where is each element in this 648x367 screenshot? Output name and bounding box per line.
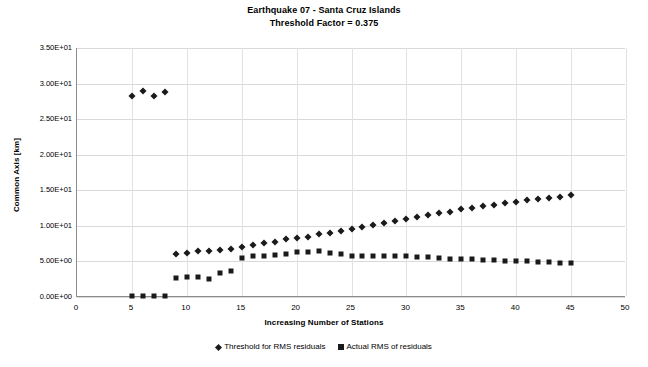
data-point-diamond — [513, 198, 520, 205]
data-point-diamond — [326, 229, 333, 236]
data-point-square — [448, 256, 453, 261]
data-point-diamond — [161, 89, 168, 96]
y-tick-label: 1.50E+01 — [20, 186, 72, 194]
x-tick-label: 0 — [61, 303, 91, 312]
data-point-diamond — [271, 239, 278, 246]
chart-legend: Threshold for RMS residualsActual RMS of… — [0, 342, 648, 351]
gridline-vertical — [187, 48, 188, 296]
data-point-diamond — [447, 208, 454, 215]
data-point-diamond — [304, 233, 311, 240]
data-point-diamond — [425, 212, 432, 219]
data-point-square — [371, 253, 376, 258]
gridline-vertical — [626, 48, 627, 296]
data-point-diamond — [315, 231, 322, 238]
data-point-square — [316, 249, 321, 254]
data-point-square — [129, 294, 134, 299]
data-point-square — [173, 275, 178, 280]
data-point-square — [569, 260, 574, 265]
legend-label: Threshold for RMS residuals — [224, 342, 325, 351]
data-point-diamond — [150, 92, 157, 99]
chart-title-block: Earthquake 07 - Santa Cruz Islands Thres… — [0, 4, 648, 30]
data-point-square — [195, 275, 200, 280]
x-axis-title: Increasing Number of Stations — [0, 318, 648, 327]
chart-subtitle: Threshold Factor = 0.375 — [0, 17, 648, 30]
gridline-vertical — [132, 48, 133, 296]
data-point-square — [272, 253, 277, 258]
data-point-diamond — [183, 249, 190, 256]
y-tick-label: 0.00E+00 — [20, 293, 72, 301]
data-point-diamond — [205, 247, 212, 254]
y-tick-label: 3.50E+01 — [20, 44, 72, 52]
data-point-diamond — [216, 246, 223, 253]
data-point-square — [481, 258, 486, 263]
data-point-diamond — [469, 205, 476, 212]
x-tick-label: 50 — [610, 303, 640, 312]
data-point-square — [426, 255, 431, 260]
data-point-square — [239, 255, 244, 260]
data-point-square — [261, 253, 266, 258]
gridline-vertical — [297, 48, 298, 296]
data-point-diamond — [436, 210, 443, 217]
x-tick-label: 25 — [336, 303, 366, 312]
data-point-diamond — [282, 236, 289, 243]
data-point-diamond — [568, 191, 575, 198]
data-point-diamond — [293, 234, 300, 241]
x-tick-label: 10 — [171, 303, 201, 312]
data-point-square — [338, 252, 343, 257]
data-point-square — [382, 254, 387, 259]
data-point-square — [404, 254, 409, 259]
x-tick-label: 20 — [281, 303, 311, 312]
square-marker-icon — [338, 344, 344, 350]
data-point-square — [437, 255, 442, 260]
gridline-horizontal — [77, 297, 625, 298]
data-point-diamond — [370, 222, 377, 229]
data-point-diamond — [491, 201, 498, 208]
data-point-square — [547, 260, 552, 265]
data-point-diamond — [458, 206, 465, 213]
y-axis-title: Common Axis [km] — [12, 120, 21, 230]
data-point-diamond — [249, 242, 256, 249]
data-point-diamond — [139, 87, 146, 94]
data-point-square — [228, 269, 233, 274]
data-point-square — [360, 254, 365, 259]
data-point-diamond — [172, 251, 179, 258]
gridline-vertical — [571, 48, 572, 296]
data-point-square — [283, 251, 288, 256]
data-point-diamond — [337, 227, 344, 234]
data-point-square — [140, 294, 145, 299]
y-tick-label: 2.00E+01 — [20, 151, 72, 159]
data-point-square — [206, 276, 211, 281]
y-tick-label: 1.00E+01 — [20, 222, 72, 230]
data-point-square — [305, 250, 310, 255]
data-point-diamond — [414, 213, 421, 220]
data-point-square — [459, 256, 464, 261]
x-tick-label: 5 — [116, 303, 146, 312]
data-point-square — [492, 258, 497, 263]
chart-title: Earthquake 07 - Santa Cruz Islands — [0, 4, 648, 17]
data-point-square — [514, 259, 519, 264]
data-point-square — [536, 260, 541, 265]
gridline-vertical — [352, 48, 353, 296]
data-point-square — [470, 257, 475, 262]
data-point-square — [525, 259, 530, 264]
data-point-square — [327, 250, 332, 255]
data-point-square — [250, 254, 255, 259]
data-point-diamond — [546, 195, 553, 202]
data-point-square — [393, 254, 398, 259]
x-tick-label: 45 — [555, 303, 585, 312]
data-point-square — [184, 275, 189, 280]
data-point-square — [349, 253, 354, 258]
data-point-square — [162, 294, 167, 299]
legend-item: Actual RMS of residuals — [338, 342, 432, 351]
chart-container: Earthquake 07 - Santa Cruz Islands Thres… — [0, 0, 648, 367]
data-point-diamond — [502, 200, 509, 207]
data-point-diamond — [238, 244, 245, 251]
data-point-square — [503, 258, 508, 263]
diamond-marker-icon — [215, 344, 222, 351]
data-point-diamond — [359, 224, 366, 231]
y-tick-label: 2.50E+01 — [20, 115, 72, 123]
y-tick-label: 3.00E+01 — [20, 80, 72, 88]
data-point-diamond — [535, 195, 542, 202]
data-point-diamond — [194, 248, 201, 255]
legend-label: Actual RMS of residuals — [347, 342, 432, 351]
